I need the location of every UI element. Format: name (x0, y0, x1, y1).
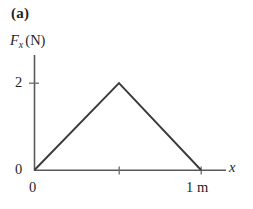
plot-area (0, 0, 253, 209)
y-tick-label-2: 2 (15, 74, 22, 91)
x-tick-label-1m: 1 m (186, 179, 208, 196)
x-tick-label-0: 0 (29, 179, 36, 196)
figure-container: (a) Fx(N) 2 0 0 1 m x (0, 0, 253, 209)
y-tick-label-0: 0 (15, 161, 22, 178)
x-axis-label: x (229, 159, 235, 176)
force-curve (35, 83, 202, 170)
